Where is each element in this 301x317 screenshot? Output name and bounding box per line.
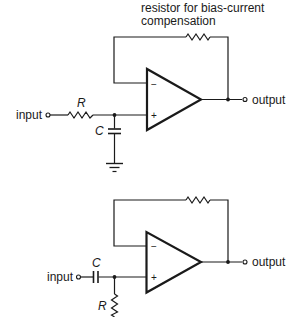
input-label-top: input — [16, 108, 43, 122]
inverting-sign-top: − — [151, 79, 157, 90]
capacitor-top-icon — [108, 129, 121, 134]
input-bottom: input C — [47, 256, 147, 284]
op-amp-top-icon: − + — [147, 69, 201, 130]
input-terminal-icon — [77, 275, 81, 279]
noninverting-sign-bottom: + — [151, 272, 157, 283]
series-capacitor-bottom-icon — [94, 271, 99, 283]
junction-dot-icon — [226, 260, 230, 264]
inverting-sign-bottom: − — [151, 241, 157, 252]
capacitor-label-c-bottom: C — [92, 256, 101, 270]
input-terminal-icon — [46, 113, 50, 117]
shunt-resistor-bottom-icon — [112, 294, 118, 317]
ground-icon — [106, 164, 123, 172]
op-amp-bottom-icon: − + — [147, 232, 202, 293]
output-top: output — [201, 93, 286, 107]
output-label-bottom: output — [252, 255, 286, 269]
annotation-line-1: resistor for bias-current — [141, 1, 265, 15]
annotation: resistor for bias-current compensation — [141, 1, 265, 28]
shunt-capacitor-top: C — [95, 115, 123, 172]
circuit-bottom: − + output input C R — [47, 197, 286, 317]
feedback-path-top — [114, 34, 228, 99]
input-top: input R — [16, 96, 147, 122]
circuit-top: − + output input R C — [16, 34, 286, 172]
schematic-canvas: resistor for bias-current compensation −… — [0, 0, 301, 317]
shunt-resistor-bottom: R — [98, 277, 118, 317]
resistor-label-r-top: R — [77, 96, 86, 110]
noninverting-sign-top: + — [151, 110, 157, 121]
feedback-resistor-top-icon — [186, 34, 210, 40]
junction-dot-icon — [226, 98, 230, 102]
annotation-line-2: compensation — [141, 14, 216, 28]
output-terminal-icon — [243, 260, 247, 264]
resistor-label-r-bottom: R — [98, 299, 107, 313]
input-label-bottom: input — [47, 270, 74, 284]
feedback-resistor-bottom-icon — [186, 197, 210, 203]
feedback-path-bottom — [114, 197, 228, 262]
output-terminal-icon — [243, 98, 247, 102]
output-bottom: output — [201, 255, 286, 269]
capacitor-label-c-top: C — [95, 124, 104, 138]
output-label-top: output — [252, 93, 286, 107]
series-resistor-top-icon — [68, 112, 93, 118]
